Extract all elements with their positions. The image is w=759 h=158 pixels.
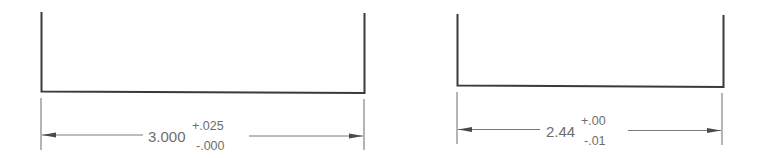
left-arrowhead-start-icon [42, 133, 56, 138]
left-part-outline [42, 12, 365, 93]
left-lower-tolerance: -.000 [196, 139, 225, 153]
left-nominal-value: 3.000 [148, 128, 186, 145]
right-part-outline [458, 14, 724, 87]
right-arrowhead-end-icon [707, 128, 721, 133]
right-lower-tolerance: -.01 [584, 134, 606, 148]
left-arrowhead-end-icon [349, 134, 363, 139]
drawing-canvas: 3.000 +.025 -.000 2.44 +.00 -.01 [0, 0, 759, 158]
right-upper-tolerance: +.00 [581, 114, 606, 128]
left-upper-tolerance: +.025 [192, 119, 224, 133]
right-dimensioned-part: 2.44 +.00 -.01 [457, 14, 724, 148]
left-dimensioned-part: 3.000 +.025 -.000 [41, 12, 365, 153]
right-arrowhead-start-icon [458, 127, 472, 132]
right-nominal-value: 2.44 [546, 123, 575, 140]
